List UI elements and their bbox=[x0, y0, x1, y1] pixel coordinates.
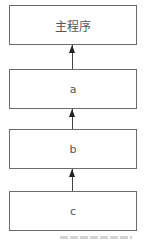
node-label: c bbox=[70, 205, 76, 218]
node-main-program: 主程序 bbox=[9, 5, 137, 45]
node-label: a bbox=[70, 83, 77, 96]
node-label: 主程序 bbox=[55, 17, 91, 34]
node-a: a bbox=[9, 69, 137, 109]
arrow-c-to-b bbox=[72, 169, 73, 191]
node-label: b bbox=[70, 143, 77, 156]
node-c: c bbox=[9, 191, 137, 231]
arrow-a-to-main bbox=[72, 45, 73, 69]
arrow-head-icon bbox=[69, 169, 75, 177]
arrow-head-icon bbox=[69, 45, 75, 53]
node-b: b bbox=[9, 129, 137, 169]
arrow-b-to-a bbox=[72, 109, 73, 129]
arrow-head-icon bbox=[69, 109, 75, 117]
figure-caption-cropped bbox=[60, 236, 132, 239]
